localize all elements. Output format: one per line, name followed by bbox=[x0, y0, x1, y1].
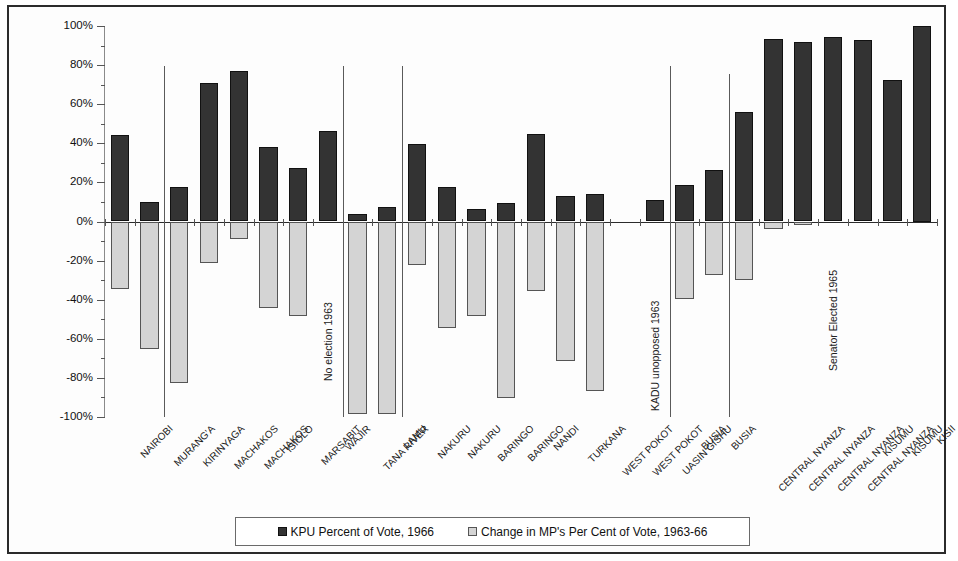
y-tick-label: 0% bbox=[31, 216, 93, 228]
bar-change bbox=[200, 222, 218, 263]
y-tick bbox=[97, 417, 105, 418]
bar-kpu bbox=[230, 71, 248, 222]
y-tick bbox=[97, 26, 105, 27]
bar-change bbox=[556, 222, 574, 362]
x-tick bbox=[759, 219, 760, 226]
x-tick bbox=[848, 219, 849, 226]
y-tick bbox=[97, 378, 105, 379]
x-tick bbox=[105, 219, 106, 226]
bar-change bbox=[705, 222, 723, 276]
bar-kpu bbox=[556, 196, 574, 221]
chart-figure: No election 1963KADU unopposed 1963Senat… bbox=[7, 5, 946, 554]
legend-swatch-kpu-icon bbox=[278, 527, 287, 536]
bar-kpu bbox=[646, 200, 664, 222]
bar-change bbox=[348, 222, 366, 415]
bar-kpu bbox=[348, 214, 366, 222]
y-tick bbox=[97, 104, 105, 105]
y-tick-minor bbox=[101, 124, 105, 125]
x-axis-label: BUSIA bbox=[729, 423, 758, 452]
x-tick bbox=[610, 219, 611, 226]
group-separator bbox=[670, 66, 671, 417]
group-separator bbox=[343, 66, 344, 417]
bar-change bbox=[794, 222, 812, 226]
y-tick bbox=[97, 65, 105, 66]
bar-kpu bbox=[319, 131, 337, 222]
x-axis-labels: NAIROBIMURANG'AKIRINYAGAMACHAKOSMACHAKOS… bbox=[105, 421, 937, 507]
y-tick-label: 40% bbox=[31, 137, 93, 149]
legend-label-change: Change in MP's Per Cent of Vote, 1963-66 bbox=[481, 525, 707, 539]
y-tick-label: 100% bbox=[31, 20, 93, 32]
legend-item-kpu: KPU Percent of Vote, 1966 bbox=[278, 525, 434, 539]
x-tick bbox=[491, 219, 492, 226]
bar-kpu bbox=[170, 187, 188, 221]
x-axis-label: NAIROBI bbox=[138, 423, 175, 460]
y-tick-minor bbox=[101, 46, 105, 47]
y-tick-minor bbox=[101, 202, 105, 203]
x-axis-label: LAMU bbox=[401, 423, 428, 450]
x-tick bbox=[878, 219, 879, 226]
y-tick bbox=[97, 222, 105, 223]
legend-label-kpu: KPU Percent of Vote, 1966 bbox=[291, 525, 434, 539]
x-tick bbox=[699, 219, 700, 226]
x-tick bbox=[521, 219, 522, 226]
bar-kpu bbox=[111, 135, 129, 222]
x-tick bbox=[580, 219, 581, 226]
x-tick bbox=[788, 219, 789, 226]
bar-change bbox=[140, 222, 158, 349]
legend-item-change: Change in MP's Per Cent of Vote, 1963-66 bbox=[468, 525, 707, 539]
bar-kpu bbox=[883, 80, 901, 222]
x-tick bbox=[907, 219, 908, 226]
bar-kpu bbox=[735, 112, 753, 221]
group-separator bbox=[729, 74, 730, 417]
bar-change bbox=[467, 222, 485, 317]
bar-kpu bbox=[140, 202, 158, 222]
x-axis-label: WEST POKOT bbox=[621, 423, 676, 478]
x-tick bbox=[818, 219, 819, 226]
y-tick bbox=[97, 339, 105, 340]
y-tick-minor bbox=[101, 319, 105, 320]
y-tick bbox=[97, 300, 105, 301]
plot-annotation: KADU unopposed 1963 bbox=[649, 301, 661, 411]
bar-kpu bbox=[438, 187, 456, 221]
x-axis-label: TURKANA bbox=[586, 423, 628, 465]
bar-change bbox=[378, 222, 396, 415]
x-tick bbox=[135, 219, 136, 226]
bar-change bbox=[170, 222, 188, 383]
y-tick bbox=[97, 261, 105, 262]
y-tick-label: -100% bbox=[31, 411, 93, 423]
plot-annotation: Senator Elected 1965 bbox=[827, 270, 839, 371]
bar-kpu bbox=[705, 170, 723, 222]
bar-kpu bbox=[200, 83, 218, 222]
bar-kpu bbox=[259, 147, 277, 221]
group-separator bbox=[402, 66, 403, 417]
y-tick-label: -80% bbox=[31, 372, 93, 384]
legend-swatch-change-icon bbox=[468, 527, 477, 536]
bar-change bbox=[527, 222, 545, 291]
bar-kpu bbox=[586, 194, 604, 221]
x-tick bbox=[640, 219, 641, 226]
x-tick bbox=[432, 219, 433, 226]
bar-kpu bbox=[824, 37, 842, 222]
bar-kpu bbox=[854, 40, 872, 222]
bar-change bbox=[408, 222, 426, 265]
bar-change bbox=[259, 222, 277, 309]
bar-kpu bbox=[794, 42, 812, 222]
bar-change bbox=[764, 222, 782, 230]
y-tick-minor bbox=[101, 358, 105, 359]
y-tick-label: -20% bbox=[31, 255, 93, 267]
bar-kpu bbox=[527, 134, 545, 222]
y-tick-minor bbox=[101, 85, 105, 86]
x-tick bbox=[551, 219, 552, 226]
plot-annotation: No election 1963 bbox=[322, 302, 334, 381]
x-tick bbox=[224, 219, 225, 226]
y-tick-label: -40% bbox=[31, 294, 93, 306]
chart-legend: KPU Percent of Vote, 1966 Change in MP's… bbox=[235, 517, 750, 546]
bar-kpu bbox=[378, 207, 396, 222]
group-separator bbox=[164, 66, 165, 417]
y-tick-minor bbox=[101, 280, 105, 281]
bar-kpu bbox=[467, 209, 485, 222]
bar-kpu bbox=[764, 39, 782, 222]
bar-kpu bbox=[289, 168, 307, 222]
x-tick bbox=[462, 219, 463, 226]
bar-kpu bbox=[497, 203, 515, 222]
